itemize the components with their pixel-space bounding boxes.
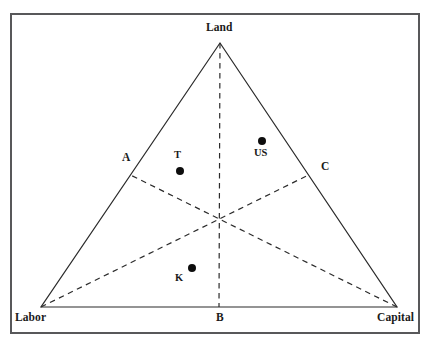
vertex-label-land: Land bbox=[206, 21, 233, 33]
data-point-label-k: K bbox=[175, 272, 183, 283]
data-point-label-us: US bbox=[254, 147, 267, 158]
ternary-plot-svg bbox=[0, 0, 429, 344]
vertex-label-capital: Capital bbox=[377, 311, 414, 323]
vertex-label-labor: Labor bbox=[15, 311, 46, 323]
midpoint-label-b: B bbox=[216, 311, 224, 323]
data-point-label-t: T bbox=[174, 149, 181, 160]
median-line-capital-to-a bbox=[131, 175, 398, 307]
median-line-land-to-b bbox=[219, 43, 220, 307]
midpoint-label-c: C bbox=[321, 160, 329, 172]
median-line-labor-to-c bbox=[41, 175, 309, 307]
midpoint-label-a: A bbox=[122, 151, 130, 163]
figure-root: Land Labor Capital A B C US T K bbox=[0, 0, 429, 344]
